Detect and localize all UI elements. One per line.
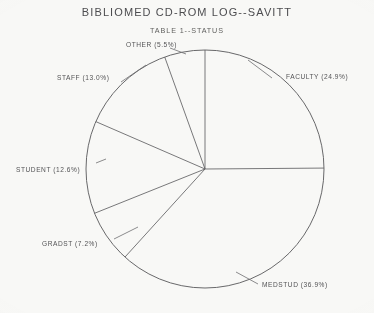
- pie-slice-divider: [205, 168, 324, 169]
- pie-slice-group: [86, 50, 324, 288]
- slice-label-other: OTHER (5.5%): [126, 41, 177, 48]
- slice-leader-line: [121, 65, 146, 82]
- pie-slice-divider: [165, 57, 205, 169]
- slice-label-faculty: FACULTY (24.9%): [286, 73, 348, 80]
- slice-leader-line: [248, 60, 272, 78]
- slice-label-staff: STAFF (13.0%): [57, 74, 109, 81]
- slice-leader-line: [114, 227, 138, 239]
- chart-page: BIBLIOMED CD-ROM LOG--SAVITT TABLE 1--ST…: [0, 0, 374, 313]
- pie-slice-divider: [95, 169, 205, 213]
- slice-label-medstud: MEDSTUD (36.9%): [262, 281, 328, 288]
- slice-label-student: STUDENT (12.6%): [16, 166, 80, 173]
- slice-label-gradst: GRADST (7.2%): [42, 240, 98, 247]
- pie-slice-divider: [96, 122, 205, 169]
- slice-leader-line: [96, 159, 106, 163]
- slice-leader-line: [236, 272, 258, 284]
- pie-chart: [0, 0, 374, 313]
- pie-slice-divider: [125, 169, 205, 257]
